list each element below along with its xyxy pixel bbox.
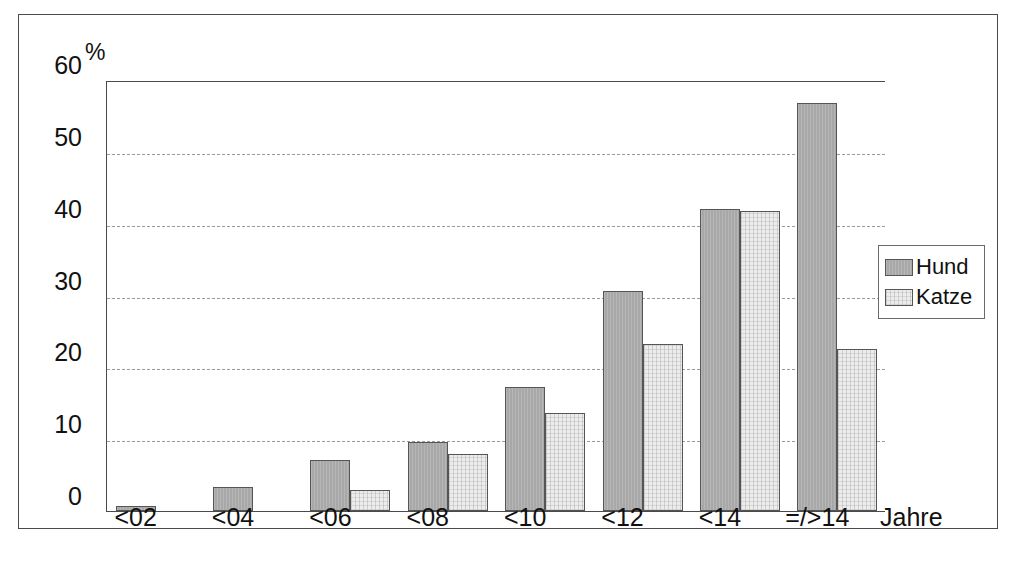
bar-katze-14 [740,211,780,511]
bar-hund-14 [797,103,837,511]
x-tick-label: <06 [282,505,379,530]
bar-katze-10 [545,413,585,511]
screenshot-page: % 0102030405060 <02<04<06<08<10<12<14=/>… [0,0,1016,563]
bar-hund-10 [505,387,545,511]
x-axis-title: Jahre [880,505,943,530]
legend-label: Katze [916,286,972,308]
x-tick-label: <08 [379,505,476,530]
bar-hund-14 [700,209,740,511]
y-tick-label: 10 [20,412,82,437]
bar-katze-08 [448,454,488,511]
bar-katze-14 [837,349,877,511]
caption-sliver [20,546,970,560]
chart-legend: HundKatze [878,245,985,319]
bars-layer [107,82,885,511]
y-tick-label: 0 [20,484,82,509]
x-tick-label: <04 [184,505,281,530]
bar-katze-12 [643,344,683,511]
legend-item-hund[interactable]: Hund [885,252,979,282]
y-tick-label: 20 [20,340,82,365]
bar-hund-08 [408,442,448,511]
legend-swatch-hund [885,259,913,276]
chart-figure-frame: % [18,14,998,529]
y-tick-label: 30 [20,269,82,294]
x-tick-label: <02 [87,505,184,530]
legend-label: Hund [916,256,969,278]
y-tick-label: 40 [20,197,82,222]
x-axis-tick-labels: <02<04<06<08<10<12<14=/>14 [87,505,866,545]
plot-area [106,81,885,512]
y-tick-label: 60 [20,53,82,78]
legend-item-katze[interactable]: Katze [885,282,979,312]
x-tick-label: <10 [477,505,574,530]
y-tick-label: 50 [20,125,82,150]
legend-swatch-katze [885,289,913,306]
x-tick-label: =/>14 [769,505,866,530]
bar-hund-12 [603,291,643,511]
y-axis-tick-labels: 0102030405060 [12,0,82,563]
x-tick-label: <12 [574,505,671,530]
x-tick-label: <14 [671,505,768,530]
y-axis-unit-label: % [85,41,105,64]
